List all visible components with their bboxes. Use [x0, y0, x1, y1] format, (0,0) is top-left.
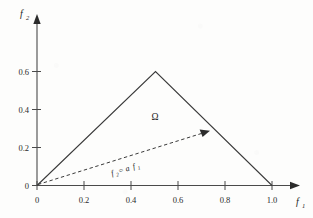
y-tick-label-0.2: 0.2 — [18, 143, 29, 153]
chart-figure: 0 0.2 0.4 0.6 f 2 0 0.2 0.4 0.6 0.8 1.0 … — [0, 0, 313, 218]
x-tick-label-0.2: 0.2 — [79, 195, 90, 205]
y-tick-label-0.4: 0.4 — [18, 105, 29, 115]
y-tick-label-0.6: 0.6 — [18, 67, 29, 77]
x-tick-label-0.8: 0.8 — [220, 195, 231, 205]
region-label-omega: Ω — [151, 112, 158, 122]
x-tick-label-0.4: 0.4 — [126, 195, 137, 205]
x-tick-label-0: 0 — [35, 195, 39, 205]
x-tick-label-1.0: 1.0 — [267, 195, 278, 205]
x-tick-label-0.6: 0.6 — [173, 195, 184, 205]
y-tick-label-0: 0 — [25, 181, 29, 191]
x-axis-label-subscript: 1 — [302, 202, 305, 209]
